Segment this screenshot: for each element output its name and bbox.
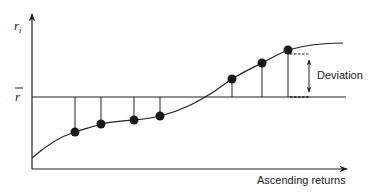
deviation-stems [75,50,288,132]
data-point [156,112,165,121]
data-point [258,59,267,68]
deviation-annotation [290,54,310,97]
annotation-label: Deviation [317,69,363,81]
data-point [228,75,237,84]
data-point [284,46,293,55]
mean-label: r [15,89,21,104]
x-axis-label: Ascending returns [257,174,346,186]
data-point [130,116,139,125]
data-point [71,128,80,137]
return-curve [32,43,343,158]
deviation-diagram: ri r Deviation Ascending returns [0,0,376,195]
y-axis-label: ri [14,18,22,35]
data-points [71,46,293,137]
data-point [97,120,106,129]
